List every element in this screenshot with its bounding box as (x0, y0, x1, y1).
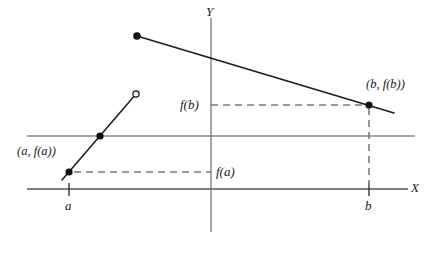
point-midpoint (96, 132, 103, 139)
x-axis-label: X (411, 181, 419, 194)
point-b-label: (b, f(b)) (366, 78, 405, 91)
point-upper-left (133, 32, 141, 40)
point-a-label: (a, f(a)) (17, 145, 56, 158)
tick-label-a: a (65, 199, 72, 212)
value-label-fb: f(b) (180, 98, 199, 111)
value-label-fa: f(a) (216, 165, 235, 178)
math-diagram: X Y a b f(a) f(b) (a, f(a)) (b, f(b)) (0, 0, 433, 253)
point-a (65, 168, 72, 175)
y-axis-label: Y (206, 5, 213, 18)
tick-label-b: b (365, 199, 372, 212)
point-b (365, 101, 372, 108)
diagram-canvas (0, 0, 433, 253)
descending-segment (137, 36, 394, 113)
point-open-top (133, 91, 139, 97)
